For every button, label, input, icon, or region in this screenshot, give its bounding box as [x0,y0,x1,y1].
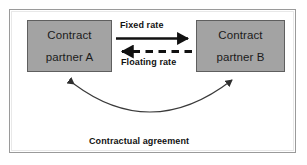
connector-label-contractual-agreement: Contractual agreement [89,136,189,146]
connector-label-floating-rate: Floating rate [121,57,176,67]
diagram-canvas: Contract partner A Contract partner B [0,0,307,165]
node-contract-partner-a[interactable]: Contract partner A [27,20,112,72]
node-contract-partner-b-line1: Contract [218,29,262,41]
node-contract-partner-b[interactable]: Contract partner B [196,20,285,72]
node-contract-partner-a-line2: partner A [46,51,94,63]
node-contract-partner-a-line1: Contract [47,29,91,41]
connector-label-fixed-rate: Fixed rate [120,20,164,30]
node-contract-partner-b-line2: partner B [216,51,264,63]
